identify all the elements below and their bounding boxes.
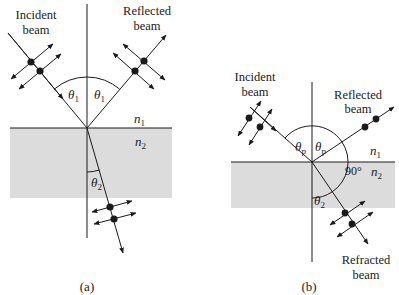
panel-b-caption: (b) (301, 279, 316, 294)
dot-perpendicular-icon (349, 221, 356, 228)
reflected-beam-label-2: beam (133, 19, 160, 33)
n1-label: n1 (134, 111, 145, 128)
thetap-incident-label: θp (295, 139, 306, 156)
angle-arc-thetap (285, 126, 342, 142)
theta1-incident-label: θ1 (68, 87, 79, 104)
refracted-beam-label-2: beam (352, 268, 379, 282)
incident-beam-label: Incident (235, 70, 276, 84)
incident-beam-label-2: beam (22, 23, 49, 37)
dot-perpendicular-icon (27, 58, 34, 65)
reflected-beam-label-2: beam (344, 102, 371, 116)
reflected-beam-label: Reflected (123, 4, 172, 18)
dot-perpendicular-icon (110, 215, 117, 222)
diagram-canvas: Incident beam Reflected beam θ1 θ1 n1 n2… (0, 0, 399, 295)
dot-perpendicular-icon (257, 124, 264, 131)
incident-beam-label: Incident (16, 8, 57, 22)
dot-perpendicular-icon (246, 115, 253, 122)
refracted-beam-label: Refracted (342, 253, 391, 267)
figure-polarization-reflection: Incident beam Reflected beam θ1 θ1 n1 n2… (0, 0, 399, 295)
dot-perpendicular-icon (106, 203, 113, 210)
incident-ray (8, 33, 87, 128)
dot-perpendicular-icon (362, 124, 369, 131)
dot-perpendicular-icon (36, 67, 43, 74)
refracted-polarization-symbols (92, 201, 136, 224)
reflected-beam-label: Reflected (334, 88, 383, 102)
n1-label: n1 (370, 143, 381, 160)
thetap-reflected-label: θp (315, 139, 326, 156)
dot-perpendicular-icon (140, 57, 147, 64)
reflected-arrow-icon (87, 35, 166, 128)
dot-perpendicular-icon (342, 210, 349, 217)
dot-perpendicular-icon (131, 67, 138, 74)
panel-a-caption: (a) (80, 279, 94, 294)
dot-perpendicular-icon (373, 116, 380, 123)
panel-b: Incident beam Reflected beam θp θp n1 90… (231, 70, 395, 294)
panel-a: Incident beam Reflected beam θ1 θ1 n1 n2… (8, 4, 172, 294)
reflected-ray (87, 35, 166, 128)
incident-beam-label-2: beam (241, 85, 268, 99)
theta1-reflected-label: θ1 (94, 87, 105, 104)
right-angle-label: 90° (345, 164, 362, 178)
